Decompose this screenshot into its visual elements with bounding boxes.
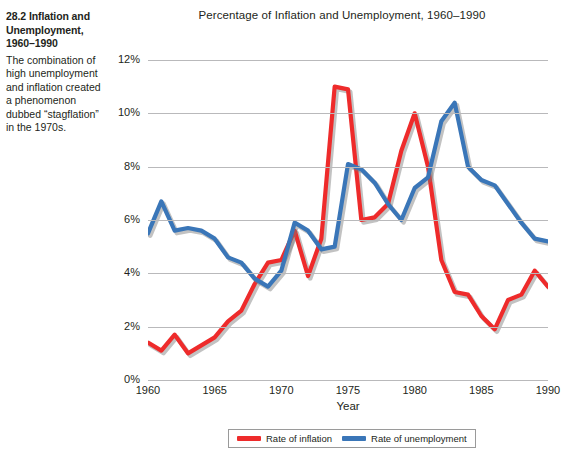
- x-tick-label: 1960: [118, 384, 178, 396]
- gridline-12: [148, 60, 548, 61]
- series-shadow: [150, 105, 548, 289]
- x-tick-label: 1965: [185, 384, 245, 396]
- legend-swatch-inflation: [237, 436, 261, 441]
- gridline-6: [148, 220, 548, 221]
- figure-root: 28.2 Inflation and Unemployment, 1960–19…: [0, 0, 574, 456]
- legend-item-inflation: Rate of inflation: [237, 433, 332, 444]
- gridline-10: [148, 113, 548, 114]
- legend-swatch-unemployment: [342, 436, 366, 441]
- figure-caption-heading: 28.2 Inflation and Unemployment, 1960–19…: [6, 10, 106, 51]
- x-axis-title: Year: [148, 400, 548, 412]
- figure-caption-body: The combination of high unemployment and…: [6, 54, 106, 135]
- x-tick-label: 1980: [385, 384, 445, 396]
- figure-heading-line1: Inflation and: [29, 10, 90, 22]
- series-line-unemployment: [148, 103, 548, 287]
- y-tick-label: 2%: [110, 320, 140, 332]
- y-tick-label: 4%: [110, 266, 140, 278]
- figure-heading-line3: 1960–1990: [6, 37, 58, 49]
- gridline-0: [148, 380, 548, 381]
- plot-area: [148, 60, 548, 380]
- figure-caption: 28.2 Inflation and Unemployment, 1960–19…: [6, 10, 106, 135]
- gridline-8: [148, 167, 548, 168]
- chart-legend: Rate of inflation Rate of unemployment: [228, 429, 476, 448]
- figure-heading-line2: Unemployment,: [6, 24, 83, 36]
- chart-title: Percentage of Inflation and Unemployment…: [110, 9, 574, 21]
- y-tick-label: 12%: [110, 53, 140, 65]
- x-tick-label: 1970: [251, 384, 311, 396]
- chart: Percentage of Inflation and Unemployment…: [110, 0, 574, 456]
- x-tick-label: 1975: [318, 384, 378, 396]
- gridline-2: [148, 327, 548, 328]
- y-tick-label: 6%: [110, 213, 140, 225]
- gridline-4: [148, 273, 548, 274]
- y-tick-label: 10%: [110, 106, 140, 118]
- y-tick-label: 8%: [110, 160, 140, 172]
- legend-label-inflation: Rate of inflation: [266, 433, 332, 444]
- series-shadow: [150, 89, 548, 356]
- x-tick-label: 1985: [451, 384, 511, 396]
- legend-item-unemployment: Rate of unemployment: [342, 433, 467, 444]
- figure-number: 28.2: [6, 10, 26, 22]
- legend-label-unemployment: Rate of unemployment: [371, 433, 467, 444]
- x-tick-label: 1990: [518, 384, 574, 396]
